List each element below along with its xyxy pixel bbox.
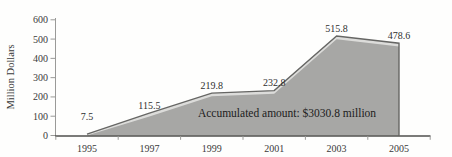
data-label: 478.6	[388, 30, 411, 41]
area-chart-figure: 0100200300400500600Million Dollars199519…	[0, 0, 452, 157]
y-tick-label: 500	[33, 34, 48, 45]
data-label: 515.8	[325, 23, 348, 34]
annotation-text: Accumulated amount: $3030.8 million	[198, 107, 376, 119]
y-tick-label: 200	[33, 91, 48, 102]
data-label: 115.5	[138, 100, 160, 111]
x-tick-label: 2001	[264, 143, 284, 154]
chart-canvas: 0100200300400500600Million Dollars199519…	[0, 0, 452, 157]
y-tick-label: 600	[33, 14, 48, 25]
data-label: 232.8	[263, 77, 286, 88]
y-tick-label: 400	[33, 53, 48, 64]
data-label: 7.5	[81, 111, 94, 122]
data-label: 219.8	[201, 80, 224, 91]
y-tick-label: 0	[43, 130, 48, 141]
x-tick-label: 1999	[202, 143, 222, 154]
x-tick-label: 2003	[327, 143, 347, 154]
x-tick-label: 1997	[139, 143, 159, 154]
x-tick-label: 2005	[389, 143, 409, 154]
x-tick-label: 1995	[77, 143, 97, 154]
y-axis-title: Million Dollars	[5, 44, 16, 109]
y-tick-label: 300	[33, 72, 48, 83]
y-tick-label: 100	[33, 111, 48, 122]
